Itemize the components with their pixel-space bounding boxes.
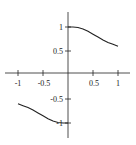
y-tick-label: 1: [59, 23, 63, 32]
y-tick-label: 0.5: [53, 47, 63, 56]
x-tick-label: 0.5: [89, 79, 99, 88]
x-tick-label: -0.5: [38, 79, 51, 88]
y-tick-label: -0.5: [50, 95, 63, 104]
x-tick-label: 1: [116, 79, 120, 88]
right-branch-curve: [68, 27, 118, 46]
x-tick-label: -1: [15, 79, 22, 88]
chart: -1 -0.5 0.5 1 1 0.5 -0.5 -1: [0, 0, 136, 145]
y-tick-label: -1: [56, 119, 63, 128]
